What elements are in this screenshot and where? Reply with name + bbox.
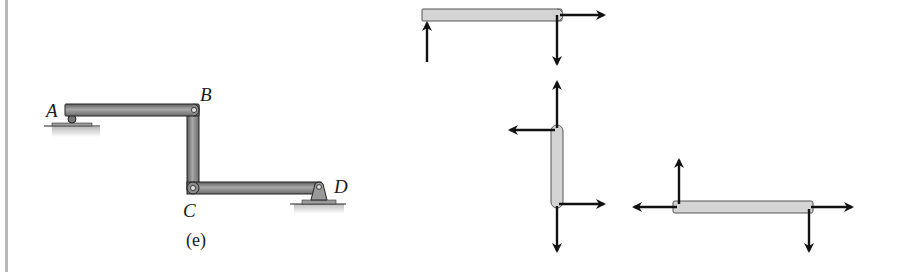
- ground-plate-d: [302, 200, 336, 204]
- fbd-member-ab: [422, 9, 604, 64]
- fbd-bar-cd: [673, 201, 813, 213]
- fbd-bar-ab: [422, 9, 562, 21]
- diagram-canvas: A B C D (e): [0, 0, 898, 272]
- fbd-bar-bc: [551, 125, 563, 208]
- fbd-member-bc: [510, 82, 604, 251]
- label-b: B: [200, 84, 212, 105]
- fbd-member-cd: [634, 160, 852, 251]
- label-c: C: [183, 200, 196, 221]
- pin-d: [317, 185, 322, 190]
- ground-hatch-a: [52, 127, 100, 137]
- mechanism: A B C D (e): [44, 84, 348, 251]
- ground-hatch-d: [294, 204, 344, 214]
- label-d: D: [333, 176, 348, 197]
- pin-b: [191, 107, 196, 112]
- member-ab: [65, 104, 199, 116]
- figure-caption: (e): [186, 230, 206, 251]
- member-cd: [187, 182, 321, 194]
- label-a: A: [44, 100, 58, 121]
- member-bc: [187, 106, 199, 190]
- pin-c: [190, 185, 195, 190]
